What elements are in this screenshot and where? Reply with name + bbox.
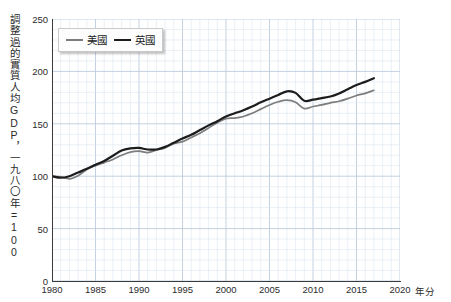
legend-item-us: 美國 <box>66 32 107 47</box>
y-axis-tick-labels: 050100150200250 <box>0 19 48 281</box>
data-series-lines <box>52 19 400 281</box>
x-tick-label: 2005 <box>259 284 280 295</box>
x-axis-line <box>52 281 401 282</box>
x-tick-label: 1990 <box>128 284 149 295</box>
series-line-英國 <box>52 78 374 178</box>
x-tick-label: 2000 <box>215 284 236 295</box>
y-tick-label: 250 <box>2 19 48 30</box>
y-axis-line <box>52 19 53 282</box>
x-axis-tick-labels: 198019851990199520002005201020152020 <box>52 284 412 300</box>
x-tick-label: 1995 <box>172 284 193 295</box>
legend-label-us: 美國 <box>87 32 107 47</box>
x-tick-label: 2015 <box>346 284 367 295</box>
legend-label-uk: 英國 <box>135 32 155 47</box>
y-tick-label: 50 <box>2 229 48 240</box>
x-tick-label: 1985 <box>85 284 106 295</box>
gdp-per-capita-line-chart: 調整過的實質人均GDP，一九八〇年=100 050100150200250 19… <box>0 0 451 302</box>
y-tick-label: 150 <box>2 124 48 135</box>
x-tick-label: 2020 <box>389 284 410 295</box>
plot-area <box>52 19 400 281</box>
x-axis-title: 年分 <box>415 284 435 298</box>
x-tick-label: 1980 <box>41 284 62 295</box>
legend-item-uk: 英國 <box>114 32 155 47</box>
legend-line-swatch-uk <box>114 39 131 41</box>
y-tick-label: 100 <box>2 176 48 187</box>
y-tick-label: 200 <box>2 71 48 82</box>
series-line-美國 <box>52 90 374 179</box>
chart-legend: 美國 英國 <box>58 28 163 52</box>
x-tick-label: 2010 <box>302 284 323 295</box>
legend-line-swatch-us <box>66 39 83 41</box>
